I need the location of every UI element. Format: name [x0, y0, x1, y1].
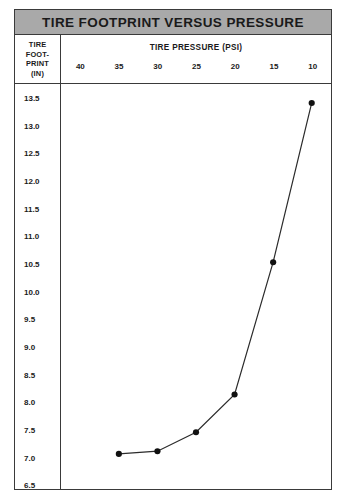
- y-axis-header-line-2: FOOT-: [26, 50, 50, 60]
- y-tick-label: 13.5: [24, 93, 40, 102]
- y-tick-label: 7.0: [24, 453, 35, 462]
- y-tick-label: 12.5: [24, 149, 40, 158]
- y-axis-header-line-3: PRINT: [26, 59, 49, 69]
- chart-body: 13.513.012.512.011.511.010.510.09.59.08.…: [15, 84, 331, 489]
- x-tick-label: 25: [192, 62, 201, 71]
- data-series-line: [61, 84, 331, 489]
- y-axis-header-line-1: TIRE: [29, 40, 47, 50]
- chart-title-banner: TIRE FOOTPRINT VERSUS PRESSURE: [15, 10, 331, 35]
- chart-figure: TIRE FOOTPRINT VERSUS PRESSURE TIRE FOOT…: [14, 9, 332, 490]
- chart-header-row: TIRE FOOT- PRINT (IN) TIRE PRESSURE (PSI…: [15, 35, 331, 84]
- y-tick-label: 9.5: [24, 315, 35, 324]
- y-axis-header-cell: TIRE FOOT- PRINT (IN): [15, 35, 61, 83]
- page-title: TIRE FOOTPRINT VERSUS PRESSURE: [42, 15, 304, 30]
- x-tick-label: 40: [76, 62, 85, 71]
- x-axis-header-cell: TIRE PRESSURE (PSI) 40353025201510: [61, 35, 331, 83]
- y-axis-header-line-4: (IN): [31, 69, 44, 79]
- x-tick-label: 30: [153, 62, 162, 71]
- series-polyline: [119, 103, 312, 454]
- y-tick-label: 8.0: [24, 398, 35, 407]
- x-tick-label: 20: [231, 62, 240, 71]
- data-point-marker: [154, 448, 160, 454]
- y-tick-label: 11.5: [24, 204, 39, 213]
- x-tick-label: 15: [269, 62, 278, 71]
- y-axis-tick-labels: 13.513.012.512.011.511.010.510.09.59.08.…: [15, 84, 61, 489]
- data-point-marker: [231, 391, 237, 397]
- data-point-marker: [270, 259, 276, 265]
- y-tick-label: 7.5: [24, 425, 35, 434]
- x-axis-title: TIRE PRESSURE (PSI): [61, 43, 331, 52]
- y-tick-label: 6.5: [24, 481, 35, 490]
- y-tick-label: 10.5: [24, 259, 40, 268]
- y-tick-label: 13.0: [24, 121, 40, 130]
- plot-area: [61, 84, 331, 489]
- x-tick-label: 10: [308, 62, 317, 71]
- y-tick-label: 9.0: [24, 342, 35, 351]
- data-point-marker: [193, 429, 199, 435]
- data-point-marker: [116, 451, 122, 457]
- y-tick-label: 12.0: [24, 176, 40, 185]
- x-tick-label: 35: [115, 62, 124, 71]
- y-tick-label: 10.0: [24, 287, 40, 296]
- y-tick-label: 11.0: [24, 232, 39, 241]
- data-point-marker: [309, 100, 315, 106]
- y-tick-label: 8.5: [24, 370, 35, 379]
